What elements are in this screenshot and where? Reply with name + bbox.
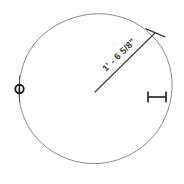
cad-drawing-canvas: 1' - 6 5/8" — [0, 0, 184, 184]
circle-outline-group — [19, 14, 172, 164]
ibeam-dimension-marker-icon — [148, 92, 166, 103]
drawing-svg-root: 1' - 6 5/8" — [0, 0, 184, 184]
radius-dimension-group — [95, 24, 165, 92]
node-point-marker-icon — [15, 76, 23, 102]
circle-outline — [19, 14, 172, 164]
